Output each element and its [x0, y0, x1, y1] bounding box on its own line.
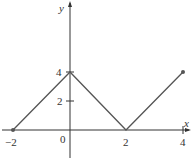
x-axis-label: x	[183, 117, 189, 129]
endpoint-left-dot	[11, 128, 15, 132]
piecewise-linear-graph: y x 4 2 0 −2 2 4	[0, 0, 191, 158]
x-tick-label-2: 2	[123, 136, 129, 148]
x-tick-label-neg2: −2	[5, 136, 17, 148]
y-axis-arrow-icon	[68, 1, 72, 7]
x-tick-label-4: 4	[180, 136, 186, 148]
origin-label: 0	[60, 133, 66, 145]
function-curve	[13, 72, 183, 130]
y-tick-label-4: 4	[56, 66, 62, 78]
y-tick-label-2: 2	[57, 95, 63, 107]
y-axis-label: y	[58, 2, 64, 14]
endpoint-right-dot	[181, 70, 185, 74]
